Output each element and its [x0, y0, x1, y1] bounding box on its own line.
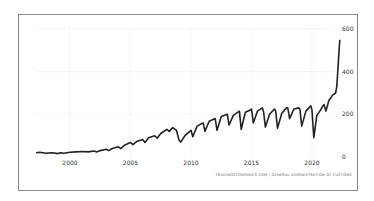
y-tick-label: 600 — [342, 25, 354, 32]
x-tick-label: 2005 — [123, 159, 138, 166]
attribution-text: TRADINGECONOMICS.COM | GENERAL ADMINISTR… — [200, 173, 352, 177]
data-series-line — [36, 40, 340, 154]
x-tick-label: 2020 — [304, 159, 319, 166]
y-tick-label: 200 — [342, 110, 354, 117]
gridlines — [34, 26, 335, 158]
x-axis-labels: 20002005201020152020 — [62, 159, 319, 166]
x-tick-label: 2015 — [244, 159, 259, 166]
y-axis-labels: 0200400600 — [342, 25, 354, 160]
line-chart: 0200400600 20002005201020152020 — [0, 0, 374, 201]
y-tick-label: 0 — [342, 153, 346, 160]
x-tick-label: 2010 — [183, 159, 198, 166]
x-tick-label: 2000 — [62, 159, 77, 166]
y-tick-label: 400 — [342, 68, 354, 75]
